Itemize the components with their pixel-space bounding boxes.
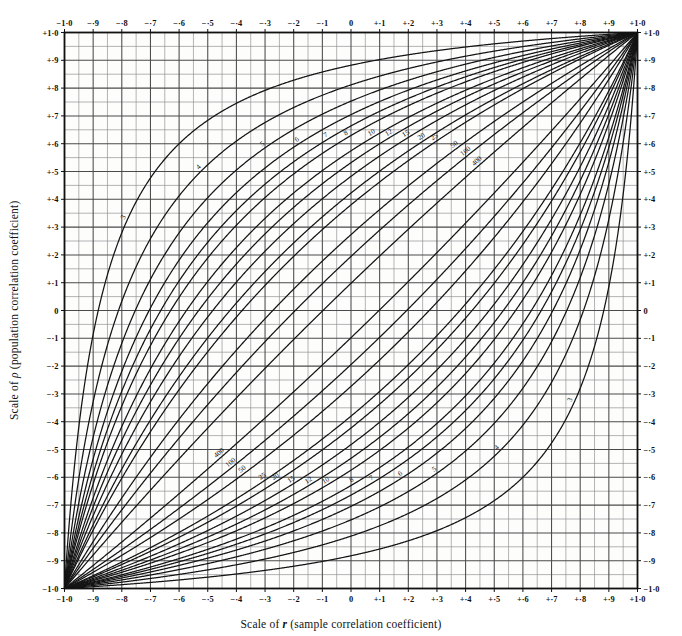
- y-tick-label-left-13: −·3: [47, 390, 59, 399]
- y-tick-label-left-0: +1·0: [43, 29, 59, 38]
- y-tick-label-left-7: +·3: [47, 223, 59, 232]
- y-tick-label-right-4: +·6: [644, 140, 656, 149]
- x-tick-label-bottom-7: −·3: [259, 595, 271, 604]
- y-axis-title-prefix: Scale of: [8, 378, 20, 420]
- x-tick-label-bottom-9: −·1: [316, 595, 328, 604]
- x-axis-labels-bottom: −1·0−·9−·8−·7−·6−·5−·4−·3−·2−·10+·1+·2+·…: [57, 595, 646, 604]
- y-tick-label-left-6: +·4: [47, 195, 60, 204]
- x-tick-label-top-5: −·5: [202, 19, 214, 28]
- y-tick-label-right-17: −·7: [644, 501, 656, 510]
- y-tick-label-left-5: +·5: [47, 168, 59, 177]
- y-tick-label-left-14: −·4: [47, 418, 60, 427]
- x-tick-label-top-1: −·9: [87, 19, 99, 28]
- x-tick-label-bottom-18: +·8: [574, 595, 586, 604]
- y-tick-label-left-20: −1·0: [43, 585, 59, 594]
- y-tick-label-left-3: +·7: [47, 112, 59, 121]
- y-tick-label-right-3: +·7: [644, 112, 656, 121]
- y-tick-label-right-9: +·1: [644, 279, 656, 288]
- x-tick-label-bottom-19: +·9: [603, 595, 615, 604]
- x-tick-label-bottom-14: +·4: [460, 595, 473, 604]
- y-tick-label-right-13: −·3: [644, 390, 656, 399]
- x-tick-label-bottom-20: +1·0: [630, 595, 646, 604]
- y-tick-label-right-14: −·4: [644, 418, 657, 427]
- y-tick-label-right-16: −·6: [644, 473, 656, 482]
- y-tick-label-right-6: +·4: [644, 195, 657, 204]
- x-tick-label-top-17: +·7: [546, 19, 558, 28]
- x-tick-label-top-13: +·3: [431, 19, 443, 28]
- x-tick-label-bottom-8: −·2: [288, 595, 300, 604]
- x-tick-label-bottom-2: −·8: [116, 595, 128, 604]
- x-tick-label-top-10: 0: [349, 19, 353, 28]
- y-tick-label-left-16: −·6: [47, 473, 59, 482]
- x-tick-label-bottom-5: −·5: [202, 595, 214, 604]
- y-tick-label-left-19: −·9: [47, 557, 59, 566]
- y-tick-label-right-15: −·5: [644, 446, 656, 455]
- x-tick-label-top-2: −·8: [116, 19, 128, 28]
- x-tick-label-bottom-12: +·2: [402, 595, 414, 604]
- y-tick-label-right-11: −·1: [644, 334, 656, 343]
- x-axis-title-prefix: Scale of: [241, 618, 283, 630]
- y-tick-label-right-18: −·8: [644, 529, 656, 538]
- x-tick-label-top-6: −·4: [231, 19, 244, 28]
- x-tick-label-bottom-16: +·6: [517, 595, 529, 604]
- x-tick-label-top-20: +1·0: [630, 19, 646, 28]
- x-tick-label-bottom-10: 0: [349, 595, 353, 604]
- x-tick-label-bottom-3: −·7: [145, 595, 157, 604]
- y-tick-label-right-20: −1·0: [644, 585, 660, 594]
- x-tick-label-top-12: +·2: [402, 19, 414, 28]
- y-tick-label-right-7: +·3: [644, 223, 656, 232]
- x-axis-title-suffix: (sample correlation coefficient): [287, 618, 441, 630]
- x-tick-label-bottom-11: +·1: [374, 595, 386, 604]
- y-tick-label-left-12: −·2: [47, 362, 59, 371]
- y-tick-label-right-5: +·5: [644, 168, 656, 177]
- y-tick-label-left-8: +·2: [47, 251, 59, 260]
- y-tick-label-right-2: +·8: [644, 84, 656, 93]
- x-tick-label-bottom-17: +·7: [546, 595, 558, 604]
- x-tick-label-top-19: +·9: [603, 19, 615, 28]
- x-tick-label-bottom-13: +·3: [431, 595, 443, 604]
- x-tick-label-top-8: −·2: [288, 19, 300, 28]
- x-tick-label-bottom-15: +·5: [488, 595, 500, 604]
- x-tick-label-top-15: +·5: [488, 19, 500, 28]
- y-tick-label-right-1: +·9: [644, 56, 656, 65]
- grid-major-lines: [65, 33, 638, 589]
- x-tick-label-bottom-4: −·6: [173, 595, 185, 604]
- y-tick-label-left-10: 0: [54, 307, 58, 316]
- x-tick-label-top-3: −·7: [145, 19, 157, 28]
- y-tick-label-left-11: −·1: [47, 334, 59, 343]
- y-tick-label-left-4: +·6: [47, 140, 59, 149]
- y-tick-label-right-8: +·2: [644, 251, 656, 260]
- y-tick-label-right-0: +1·0: [644, 29, 660, 38]
- x-tick-label-top-9: −·1: [316, 19, 328, 28]
- x-tick-label-bottom-6: −·4: [231, 595, 244, 604]
- x-tick-label-top-16: +·6: [517, 19, 529, 28]
- y-axis-title-suffix: (population correlation coefficient): [8, 201, 20, 373]
- x-tick-label-bottom-1: −·9: [87, 595, 99, 604]
- y-tick-label-right-19: −·9: [644, 557, 656, 566]
- y-axis-title: Scale of ρ (population correlation coeff…: [8, 201, 20, 420]
- x-axis-labels-top: −1·0−·9−·8−·7−·6−·5−·4−·3−·2−·10+·1+·2+·…: [57, 19, 646, 28]
- x-tick-label-top-18: +·8: [574, 19, 586, 28]
- x-tick-label-top-0: −1·0: [57, 19, 73, 28]
- y-tick-label-left-17: −·7: [47, 501, 59, 510]
- x-tick-label-bottom-0: −1·0: [57, 595, 73, 604]
- x-tick-label-top-4: −·6: [173, 19, 185, 28]
- y-tick-label-right-10: 0: [644, 307, 648, 316]
- y-tick-label-left-1: +·9: [47, 56, 59, 65]
- y-tick-label-left-15: −·5: [47, 446, 59, 455]
- chart-page: 3344556677881010121215152020252550501001…: [0, 0, 682, 636]
- y-tick-label-left-2: +·8: [47, 84, 59, 93]
- x-tick-label-top-11: +·1: [374, 19, 386, 28]
- y-tick-label-left-18: −·8: [47, 529, 59, 538]
- y-axis-symbol: ρ: [8, 372, 20, 378]
- y-tick-label-left-9: +·1: [47, 279, 59, 288]
- y-tick-label-right-12: −·2: [644, 362, 656, 371]
- correlation-confidence-belt-chart: 3344556677881010121215152020252550501001…: [0, 0, 682, 636]
- x-tick-label-top-7: −·3: [259, 19, 271, 28]
- x-axis-title: Scale of r (sample correlation coefficie…: [0, 618, 682, 630]
- x-tick-label-top-14: +·4: [460, 19, 473, 28]
